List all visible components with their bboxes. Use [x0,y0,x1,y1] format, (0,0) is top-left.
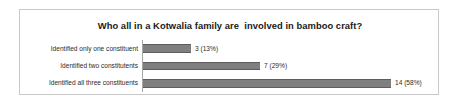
bar-value-two-constituents: 7 (29%) [264,62,287,70]
bar-two-constituents[interactable] [143,62,260,71]
plot-area: Identified only one constituent 3 (13%) … [20,40,440,94]
bar-group-three-constituents: 14 (58%) [143,79,422,88]
bar-row: Identified two constitutents 7 (29%) [20,57,440,74]
category-label-one-constituent: Identified only one constituent [0,45,138,53]
category-label-two-constituents: Identified two constitutents [0,62,138,70]
bar-three-constituents[interactable] [143,79,391,88]
bar-group-one-constituent: 3 (13%) [143,44,218,53]
bar-value-one-constituent: 3 (13%) [195,45,218,53]
chart-title: Who all in a Kotwalia family are involve… [20,20,440,31]
category-label-three-constituents: Identified all three constituents [0,79,138,87]
bar-row: Identified only one constituent 3 (13%) [20,40,440,57]
bar-value-three-constituents: 14 (58%) [395,79,422,87]
chart-frame: Who all in a Kotwalia family are involve… [19,9,439,95]
bar-group-two-constituents: 7 (29%) [143,62,287,71]
bar-one-constituent[interactable] [143,44,191,53]
bar-row: Identified all three constituents 14 (58… [20,75,440,92]
